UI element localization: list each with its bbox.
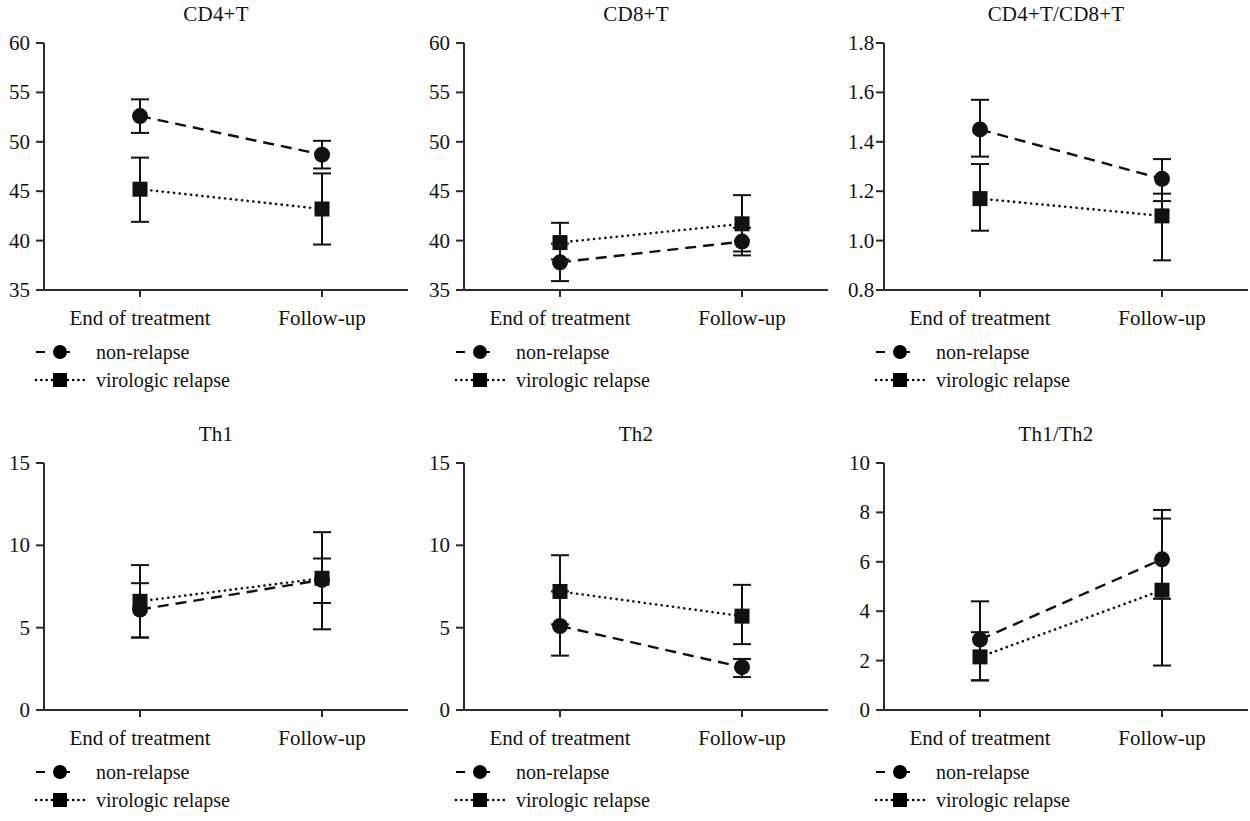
- data-point-circle: [972, 121, 988, 137]
- data-point-square: [133, 594, 148, 609]
- legend-item-non-relapse: non-relapse: [874, 758, 1070, 786]
- legend-item-virologic-relapse: virologic relapse: [874, 366, 1070, 394]
- dashed-connector-line: [140, 580, 322, 610]
- chart-legend: non-relapsevirologic relapse: [454, 758, 650, 814]
- data-point-square: [133, 182, 148, 197]
- dashed-connector-line: [560, 626, 742, 667]
- legend-square-marker-icon: [34, 368, 86, 392]
- legend-label: non-relapse: [936, 761, 1029, 784]
- y-tick-label: 50: [428, 129, 450, 154]
- series-non-relapse: [971, 510, 1171, 680]
- x-tick-label: Follow-up: [1118, 726, 1206, 751]
- dotted-connector-line: [140, 578, 322, 601]
- axes: [36, 463, 408, 717]
- dotted-connector-line: [140, 189, 322, 209]
- legend-item-virologic-relapse: virologic relapse: [454, 786, 650, 814]
- legend-circle-marker-icon: [454, 760, 506, 784]
- legend-item-virologic-relapse: virologic relapse: [34, 366, 230, 394]
- chart-panel-cd4-t: CD4+T354045505560End of treatmentFollow-…: [8, 0, 424, 410]
- x-tick-label: Follow-up: [698, 726, 786, 751]
- data-point-square: [735, 609, 750, 624]
- y-tick-label: 55: [8, 80, 30, 105]
- data-point-square: [553, 235, 568, 250]
- y-tick-label: 15: [8, 451, 30, 476]
- x-tick-label: End of treatment: [909, 306, 1050, 331]
- axes: [36, 43, 408, 297]
- y-tick-label: 0: [428, 698, 450, 723]
- axes: [456, 463, 828, 717]
- y-tick-label: 10: [848, 451, 870, 476]
- y-tick-label: 15: [428, 451, 450, 476]
- legend-square-marker-icon: [34, 788, 86, 812]
- dotted-connector-line: [560, 591, 742, 616]
- series-non-relapse: [971, 100, 1171, 201]
- error-bar: [1153, 194, 1171, 261]
- legend-label: virologic relapse: [936, 369, 1070, 392]
- series-virologic-relapse: [131, 158, 331, 245]
- y-tick-label: 1.6: [848, 80, 870, 105]
- chart-panel-cd8-t: CD8+T354045505560End of treatmentFollow-…: [428, 0, 844, 410]
- data-point-square: [553, 584, 568, 599]
- axes: [876, 463, 1248, 717]
- y-tick-label: 5: [428, 615, 450, 640]
- dotted-connector-line: [560, 224, 742, 243]
- y-tick-label: 0: [8, 698, 30, 723]
- legend-item-virologic-relapse: virologic relapse: [454, 366, 650, 394]
- legend-label: non-relapse: [516, 341, 609, 364]
- x-tick-label: Follow-up: [278, 726, 366, 751]
- figure-panel-grid: CD4+T354045505560End of treatmentFollow-…: [0, 0, 1250, 821]
- x-tick-label: End of treatment: [69, 306, 210, 331]
- legend-square-marker-icon: [874, 788, 926, 812]
- axes: [456, 43, 828, 297]
- chart-legend: non-relapsevirologic relapse: [454, 338, 650, 394]
- chart-panel-cd4-t-cd8-t: CD4+T/CD8+T0.81.01.21.41.61.8End of trea…: [848, 0, 1250, 410]
- legend-item-non-relapse: non-relapse: [874, 338, 1070, 366]
- legend-label: virologic relapse: [516, 789, 650, 812]
- data-point-circle: [734, 659, 750, 675]
- legend-square-marker-icon: [874, 368, 926, 392]
- y-tick-label: 1.0: [848, 228, 870, 253]
- chart-panel-th1-th2: Th1/Th20246810End of treatmentFollow-upn…: [848, 420, 1250, 821]
- series-non-relapse: [551, 228, 751, 281]
- legend-circle-marker-icon: [34, 340, 86, 364]
- y-tick-label: 0: [848, 698, 870, 723]
- legend-label: virologic relapse: [936, 789, 1070, 812]
- legend-circle-marker-icon: [34, 760, 86, 784]
- dashed-connector-line: [560, 242, 742, 263]
- data-point-circle: [1154, 171, 1170, 187]
- legend-label: virologic relapse: [96, 369, 230, 392]
- legend-circle-marker-icon: [454, 340, 506, 364]
- legend-square-marker-icon: [454, 368, 506, 392]
- data-point-square: [1155, 208, 1170, 223]
- data-point-circle: [314, 147, 330, 163]
- y-tick-label: 1.8: [848, 31, 870, 56]
- legend-label: non-relapse: [96, 341, 189, 364]
- y-tick-label: 60: [8, 31, 30, 56]
- data-point-square: [315, 571, 330, 586]
- dotted-connector-line: [980, 199, 1162, 216]
- y-tick-label: 55: [428, 80, 450, 105]
- legend-square-marker-icon: [454, 788, 506, 812]
- y-tick-label: 35: [428, 278, 450, 303]
- legend-circle-marker-icon: [874, 760, 926, 784]
- chart-panel-th1: Th1051015End of treatmentFollow-upnon-re…: [8, 420, 424, 821]
- series-virologic-relapse: [551, 195, 751, 259]
- y-tick-label: 10: [8, 533, 30, 558]
- legend-label: non-relapse: [96, 761, 189, 784]
- chart-legend: non-relapsevirologic relapse: [874, 338, 1070, 394]
- chart-panel-th2: Th2051015End of treatmentFollow-upnon-re…: [428, 420, 844, 821]
- series-virologic-relapse: [131, 559, 331, 638]
- data-point-square: [973, 191, 988, 206]
- legend-label: virologic relapse: [96, 789, 230, 812]
- dashed-connector-line: [140, 116, 322, 155]
- y-tick-label: 1.2: [848, 179, 870, 204]
- x-tick-label: Follow-up: [1118, 306, 1206, 331]
- legend-item-virologic-relapse: virologic relapse: [34, 786, 230, 814]
- legend-label: non-relapse: [516, 761, 609, 784]
- x-tick-label: End of treatment: [489, 306, 630, 331]
- series-virologic-relapse: [971, 164, 1171, 260]
- x-tick-label: End of treatment: [489, 726, 630, 751]
- legend-label: non-relapse: [936, 341, 1029, 364]
- dashed-connector-line: [980, 129, 1162, 178]
- series-non-relapse: [131, 99, 331, 168]
